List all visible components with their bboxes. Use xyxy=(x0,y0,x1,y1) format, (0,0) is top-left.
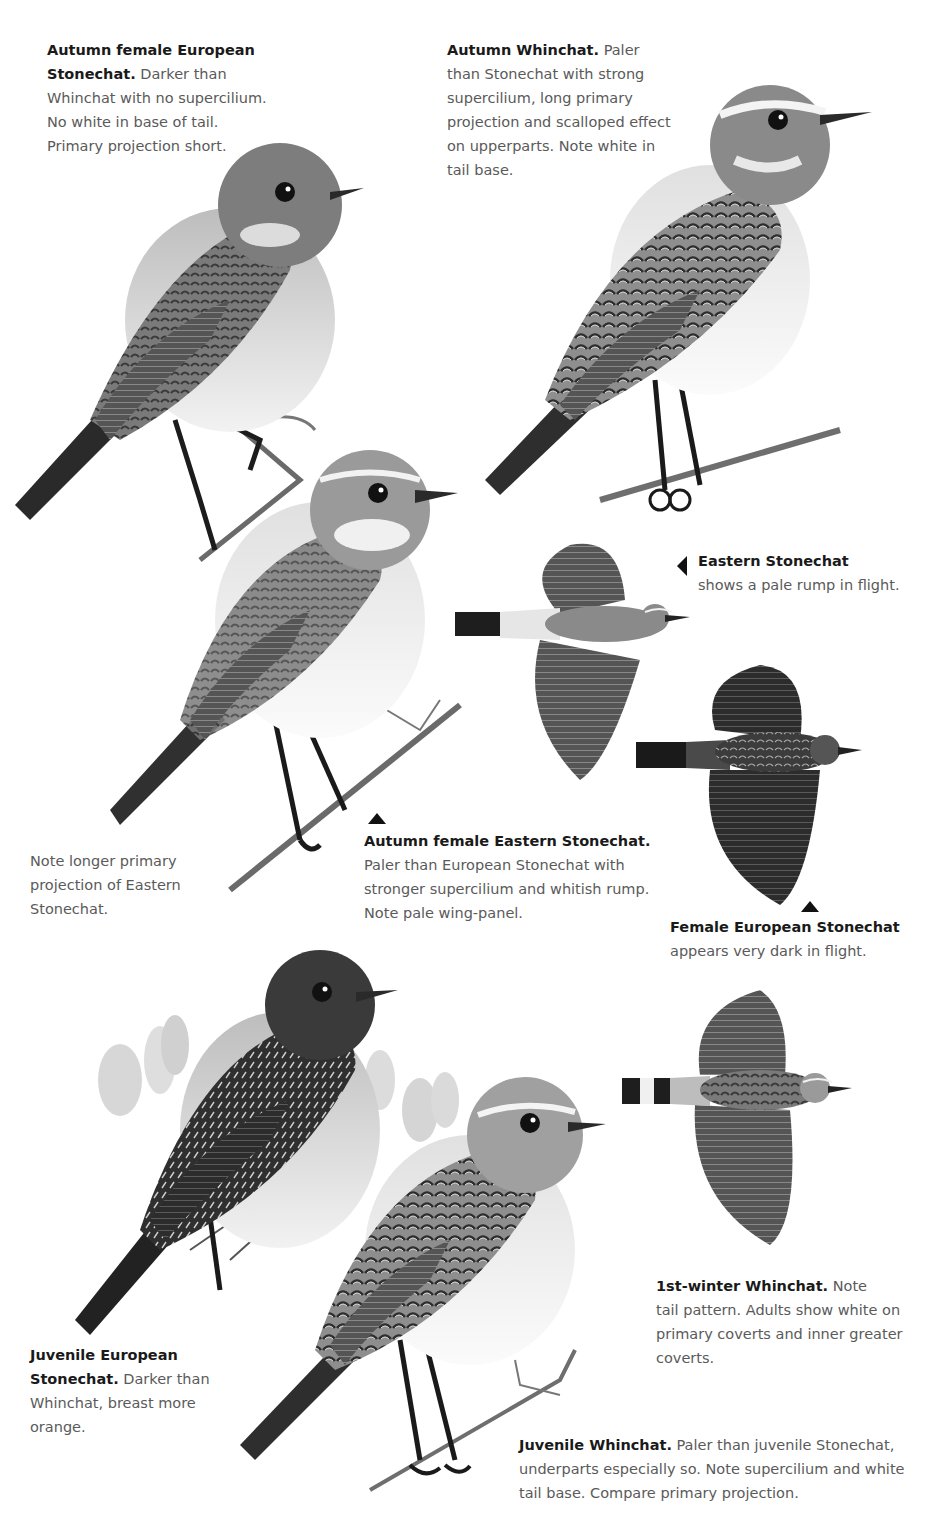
illustration-autumn-whinchat xyxy=(485,85,872,510)
illustration-female-european-stonechat-flight xyxy=(636,665,862,905)
illustration-autumn-female-eastern-stonechat xyxy=(110,450,460,890)
illustration-layer xyxy=(0,0,930,1539)
illustration-first-winter-whinchat-flight xyxy=(622,990,852,1245)
